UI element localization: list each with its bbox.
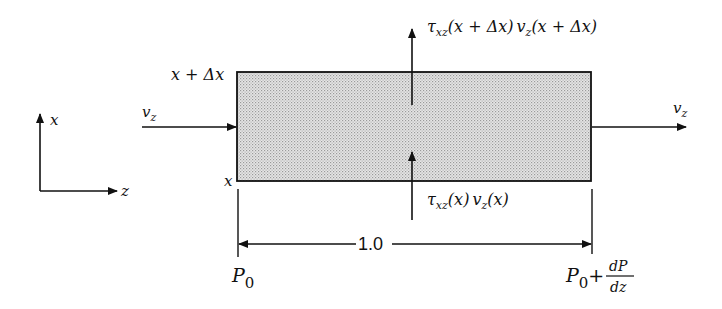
x-axis-label: x <box>50 111 59 129</box>
inlet-flow: vz <box>142 103 236 127</box>
z-axis-label: z <box>120 182 129 200</box>
inlet-velocity-label: vz <box>142 103 156 124</box>
outlet-flow: vz <box>592 99 687 127</box>
right-pressure-label: P0+ dP dz <box>565 258 634 295</box>
bottom-flux-label: τxz(x)vz(x) <box>427 190 509 212</box>
length-label: 1.0 <box>358 234 383 254</box>
flow-element-diagram: x z x + Δx x vz vz τxz(x + Δx)vz(x + Δx)… <box>0 0 722 309</box>
outlet-velocity-label: vz <box>673 99 687 120</box>
left-pressure-label: P0 <box>231 264 254 292</box>
top-boundary-label: x + Δx <box>171 65 224 84</box>
top-flux-label: τxz(x + Δx)vz(x + Δx) <box>427 17 597 39</box>
bottom-boundary-label: x <box>224 172 233 190</box>
fluid-element-box <box>237 72 591 181</box>
right-pressure-denominator: dz <box>610 279 627 295</box>
right-pressure-numerator: dP <box>609 258 628 274</box>
right-pressure-base: P0+ <box>565 264 604 292</box>
length-dimension: 1.0 <box>238 189 592 257</box>
coordinate-axes: x z <box>40 111 129 200</box>
